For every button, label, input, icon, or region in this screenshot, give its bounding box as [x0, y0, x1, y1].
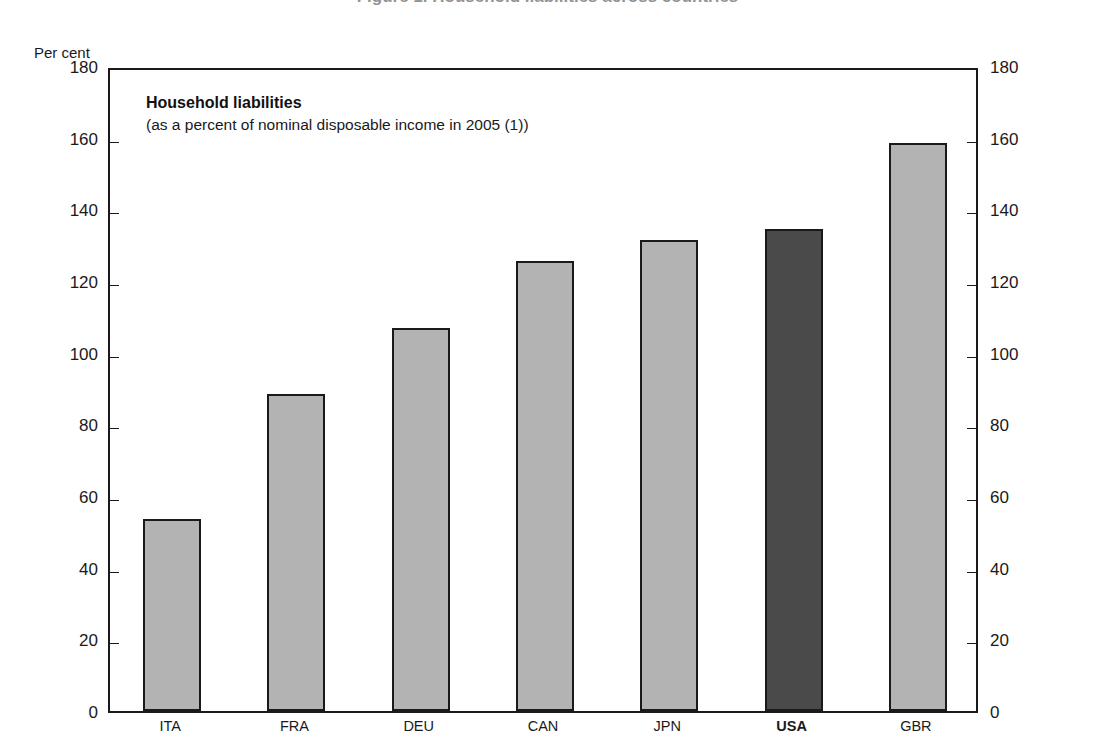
bar-deu — [392, 328, 450, 711]
x-axis-label-gbr: GBR — [876, 719, 956, 734]
y-tick-mark-left — [110, 142, 119, 143]
y-tick-label-right: 40 — [990, 561, 1054, 578]
bar-usa — [765, 229, 823, 711]
y-tick-label-left: 60 — [34, 489, 98, 506]
y-tick-label-left: 180 — [34, 59, 98, 76]
y-tick-label-right: 60 — [990, 489, 1054, 506]
y-tick-label-left: 120 — [34, 274, 98, 291]
chart-title: Household liabilities — [146, 92, 529, 113]
y-tick-mark-right — [967, 500, 976, 501]
clipped-page-title: Figure 1. Household liabilities across c… — [0, 0, 1095, 14]
x-axis-label-can: CAN — [503, 719, 583, 734]
y-tick-label-left: 100 — [34, 346, 98, 363]
y-tick-mark-left — [110, 572, 119, 573]
x-axis-label-ita: ITA — [130, 719, 210, 734]
y-tick-label-left: 140 — [34, 202, 98, 219]
y-tick-mark-left — [110, 643, 119, 644]
y-tick-label-right: 120 — [990, 274, 1054, 291]
y-tick-label-left: 40 — [34, 561, 98, 578]
bar-jpn — [640, 240, 698, 711]
x-axis-label-fra: FRA — [254, 719, 334, 734]
y-tick-mark-right — [967, 572, 976, 573]
clipped-page-title-text: Figure 1. Household liabilities across c… — [0, 0, 1095, 7]
y-tick-mark-right — [967, 285, 976, 286]
y-tick-label-right: 20 — [990, 632, 1054, 649]
bar-ita — [143, 519, 201, 711]
y-tick-mark-right — [967, 643, 976, 644]
y-tick-mark-left — [110, 213, 119, 214]
y-tick-mark-left — [110, 500, 119, 501]
y-tick-label-left: 0 — [34, 704, 98, 721]
y-tick-mark-left — [110, 357, 119, 358]
y-tick-label-right: 100 — [990, 346, 1054, 363]
y-tick-mark-left — [110, 428, 119, 429]
bar-fra — [267, 394, 325, 711]
x-axis-label-usa: USA — [752, 719, 832, 734]
chart-plot-area: Household liabilities (as a percent of n… — [108, 68, 978, 713]
y-tick-label-left: 80 — [34, 417, 98, 434]
y-tick-label-left: 160 — [34, 131, 98, 148]
y-tick-label-right: 160 — [990, 131, 1054, 148]
y-tick-label-right: 180 — [990, 59, 1054, 76]
chart-subtitle: (as a percent of nominal disposable inco… — [146, 115, 529, 136]
y-tick-mark-right — [967, 142, 976, 143]
y-tick-mark-right — [967, 213, 976, 214]
y-tick-mark-right — [967, 428, 976, 429]
y-tick-label-right: 0 — [990, 704, 1054, 721]
y-tick-label-right: 140 — [990, 202, 1054, 219]
chart-caption-block: Household liabilities (as a percent of n… — [146, 92, 529, 136]
x-axis-label-deu: DEU — [379, 719, 459, 734]
x-axis-label-jpn: JPN — [627, 719, 707, 734]
y-tick-mark-right — [967, 357, 976, 358]
y-tick-label-right: 80 — [990, 417, 1054, 434]
bar-gbr — [889, 143, 947, 711]
bar-can — [516, 261, 574, 711]
y-tick-label-left: 20 — [34, 632, 98, 649]
y-tick-mark-left — [110, 285, 119, 286]
